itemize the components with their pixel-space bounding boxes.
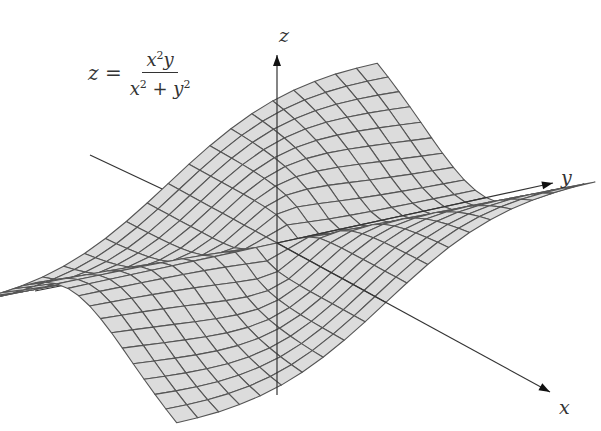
surface-mesh <box>0 63 595 423</box>
surface-equation: z = x2y x2 + y2 <box>88 46 191 99</box>
equation-numerator: x2y <box>142 46 177 73</box>
z-axis-label: z <box>279 24 289 46</box>
y-axis-label: y <box>561 166 572 188</box>
equation-fraction: x2y x2 + y2 <box>130 46 191 99</box>
x-axis-arrowhead-icon <box>538 383 550 392</box>
z-axis-arrowhead-icon <box>273 55 281 66</box>
surface-patch <box>0 296 2 302</box>
x-axis-label: x <box>559 396 570 418</box>
y-axis-arrowhead-icon <box>541 181 553 189</box>
equation-lhs: z = <box>88 61 122 85</box>
equation-denominator: x2 + y2 <box>130 73 191 99</box>
